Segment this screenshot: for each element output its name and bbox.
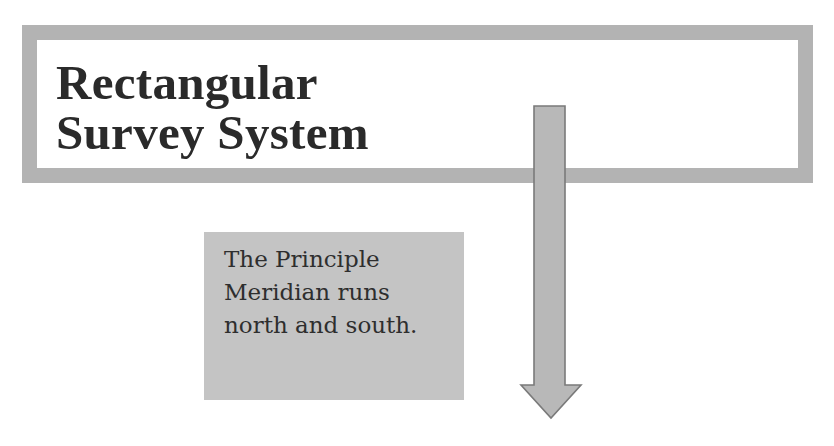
callout-line-2: Meridian runs [224,276,464,309]
callout-text: The Principle Meridian runs north and so… [224,243,464,342]
slide-title: Rectangular Survey System [56,58,369,158]
title-line-1: Rectangular [56,58,369,108]
callout-line-1: The Principle [224,243,464,276]
down-arrow-icon [518,104,584,422]
title-line-2: Survey System [56,108,369,158]
callout-line-3: north and south. [224,309,464,342]
callout-box: The Principle Meridian runs north and so… [204,232,464,400]
